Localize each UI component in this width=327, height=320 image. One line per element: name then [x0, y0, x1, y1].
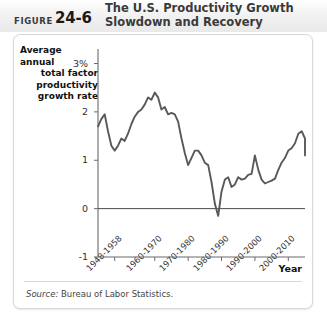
- figure-label: FIGURE: [14, 16, 53, 26]
- figure-panel: Average annual total factor productivity…: [13, 34, 313, 309]
- y-tick-marks: [94, 64, 98, 257]
- figure-title-line-1: The U.S. Productivity Growth: [105, 2, 320, 16]
- chart-area: Average annual total factor productivity…: [14, 35, 312, 280]
- figure-number: 24-6: [55, 9, 92, 27]
- source-text: Bureau of Labor Statistics.: [58, 289, 173, 299]
- figure-title-line-2: Slowdown and Recovery: [105, 16, 320, 30]
- chart-plot: [14, 35, 312, 280]
- data-series-line: [98, 93, 305, 216]
- figure-header: FIGURE 24-6 The U.S. Productivity Growth…: [0, 0, 327, 32]
- source-note: Source: Bureau of Labor Statistics.: [26, 289, 173, 299]
- figure-title: The U.S. Productivity Growth Slowdown an…: [105, 2, 320, 29]
- source-divider: [24, 281, 302, 282]
- source-label: Source:: [26, 289, 58, 299]
- x-tick-marks: [115, 257, 289, 261]
- figure-root: FIGURE 24-6 The U.S. Productivity Growth…: [0, 0, 327, 320]
- axis-lines: [98, 49, 305, 257]
